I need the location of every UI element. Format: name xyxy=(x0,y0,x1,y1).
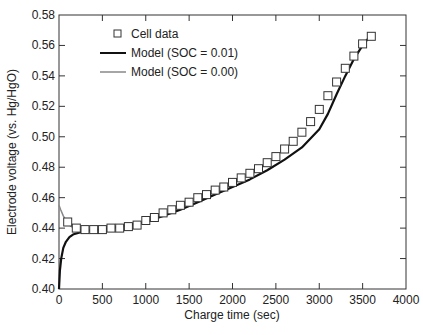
legend: Cell data Model (SOC = 0.01) Model (SOC … xyxy=(100,27,238,79)
cell-data-point xyxy=(194,194,202,202)
y-tick-label: 0.42 xyxy=(32,252,56,266)
cell-data-point xyxy=(150,214,158,222)
cell-data-point xyxy=(237,174,245,182)
cell-data-point xyxy=(324,92,332,100)
cell-data-point xyxy=(220,183,228,191)
cell-data-point xyxy=(107,224,115,232)
x-tick-label: 500 xyxy=(92,293,112,307)
cell-data-point xyxy=(298,128,306,136)
cell-data-point xyxy=(124,223,132,231)
cell-data-point xyxy=(81,226,89,234)
cell-data-point xyxy=(341,64,349,72)
legend-label-cell-data: Cell data xyxy=(131,27,179,41)
cell-data-point xyxy=(168,206,176,214)
cell-data-point xyxy=(281,145,289,153)
cell-data-point xyxy=(72,224,80,232)
cell-data-point xyxy=(98,226,106,234)
cell-data-point xyxy=(333,78,341,86)
y-tick-label: 0.44 xyxy=(32,221,56,235)
cell-data-point xyxy=(64,218,72,226)
cell-data-point xyxy=(367,32,375,40)
cell-data-point xyxy=(263,159,271,167)
cell-data-point xyxy=(229,178,237,186)
cell-data-point xyxy=(90,226,98,234)
chart: 05001000150020002500300035004000 0.400.4… xyxy=(0,0,423,335)
cell-data-point xyxy=(307,118,315,126)
x-axis-label: Charge time (sec) xyxy=(184,308,279,322)
x-tick-label: 3000 xyxy=(306,293,333,307)
x-tick-label: 3500 xyxy=(349,293,376,307)
cell-data-point xyxy=(185,198,193,206)
cell-data-point xyxy=(350,52,358,60)
cell-data-point xyxy=(133,221,141,229)
y-tick-label: 0.52 xyxy=(32,99,56,113)
x-tick-label: 4000 xyxy=(393,293,420,307)
x-tick-label: 2500 xyxy=(263,293,290,307)
y-tick-label: 0.46 xyxy=(32,191,56,205)
y-tick-label: 0.54 xyxy=(32,69,56,83)
x-tick-label: 0 xyxy=(56,293,63,307)
cell-data-point xyxy=(315,105,323,113)
x-tick-label: 2000 xyxy=(219,293,246,307)
y-tick-label: 0.56 xyxy=(32,38,56,52)
cell-data-point xyxy=(289,137,297,145)
cell-data-point xyxy=(116,224,124,232)
legend-marker-cell-data xyxy=(114,30,121,37)
x-tick-label: 1500 xyxy=(176,293,203,307)
cell-data-point xyxy=(159,209,167,217)
cell-data-point xyxy=(211,186,219,194)
y-tick-label: 0.40 xyxy=(32,282,56,296)
legend-label-soc-001: Model (SOC = 0.01) xyxy=(131,46,238,60)
legend-label-soc-000: Model (SOC = 0.00) xyxy=(131,65,238,79)
x-tick-label: 1000 xyxy=(132,293,159,307)
y-tick-label: 0.50 xyxy=(32,130,56,144)
cell-data-point xyxy=(272,153,280,161)
cell-data-point xyxy=(255,165,263,173)
y-tick-label: 0.48 xyxy=(32,160,56,174)
cell-data-point xyxy=(246,169,254,177)
cell-data-point xyxy=(142,217,150,225)
y-axis-label: Electrode voltage (vs. Hg/HgO) xyxy=(5,69,19,235)
cell-data-point xyxy=(203,191,211,199)
y-tick-label: 0.58 xyxy=(32,8,56,22)
cell-data-point xyxy=(359,40,367,48)
cell-data-point xyxy=(176,201,184,209)
